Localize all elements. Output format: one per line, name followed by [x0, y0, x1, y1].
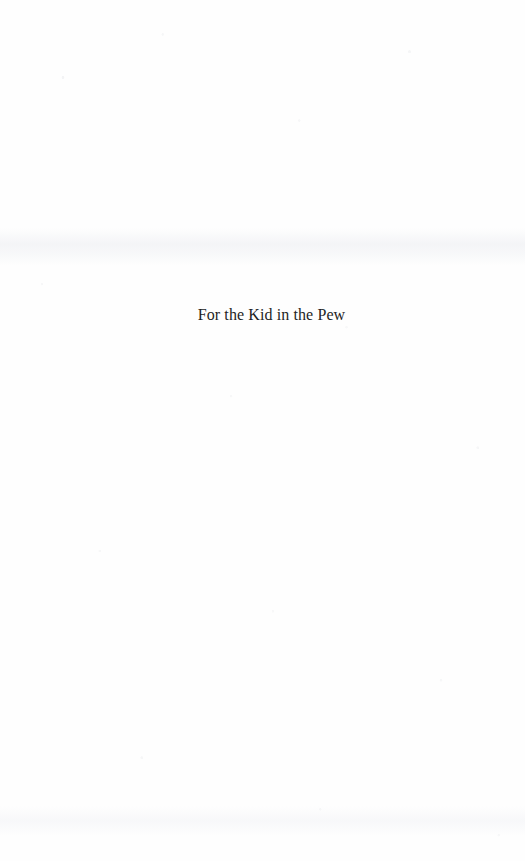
document-page: For the Kid in the Pew [0, 0, 525, 861]
page-bleed-through-band-lower [0, 806, 525, 836]
dedication-block: For the Kid in the Pew [0, 305, 525, 325]
paper-grain-texture [0, 0, 525, 861]
page-bleed-through-band [0, 228, 525, 266]
dedication-text: For the Kid in the Pew [198, 305, 346, 325]
